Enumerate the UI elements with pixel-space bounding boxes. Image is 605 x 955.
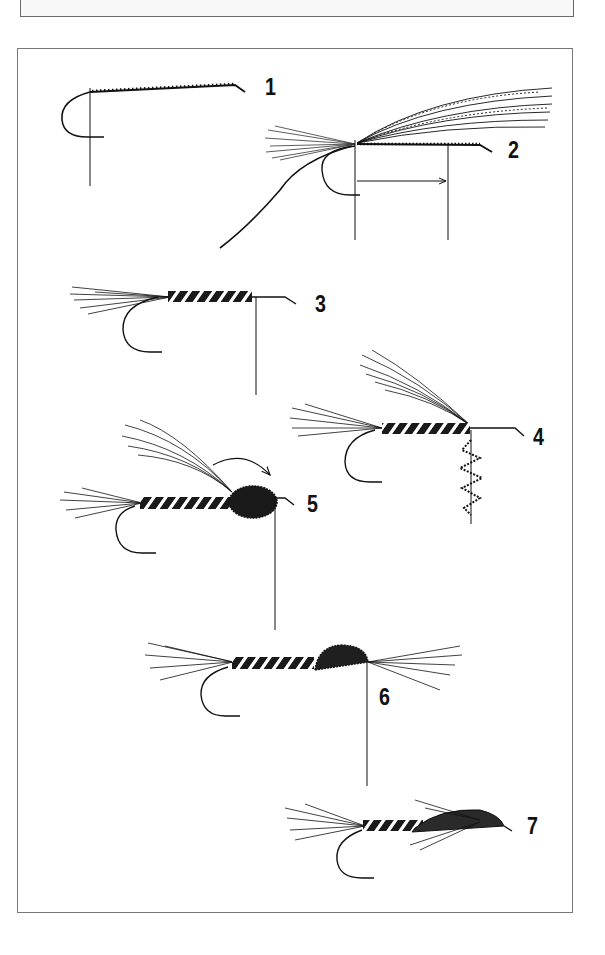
step-1-hook xyxy=(62,84,245,186)
step-label-6: 6 xyxy=(379,685,390,709)
step-label-5: 5 xyxy=(307,492,318,516)
step-label-1: 1 xyxy=(265,75,276,99)
step-label-2: 2 xyxy=(508,138,519,162)
step-2-tail-wing xyxy=(220,88,552,248)
step-label-4: 4 xyxy=(533,425,544,449)
step-7-finished-fly xyxy=(285,800,512,878)
step-label-7: 7 xyxy=(527,814,538,838)
step-label-3: 3 xyxy=(315,292,326,316)
step-6-wingcase xyxy=(145,643,462,786)
step-3-body xyxy=(70,287,296,395)
step-4-wing-dubbing xyxy=(290,350,524,524)
step-5-thorax xyxy=(60,420,294,630)
